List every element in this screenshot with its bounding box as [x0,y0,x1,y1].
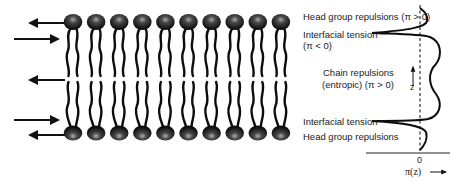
lipid-tail [182,82,186,128]
upper-leaflet-tails [67,28,287,76]
lipid-head-icon [202,126,221,141]
lipid-tail [284,82,287,128]
lipid-tail [251,28,255,76]
lipid-tail [215,82,218,128]
lipid-tail [67,28,71,76]
lipid-tail [238,82,241,128]
lipid-tail [113,28,117,76]
lipid-tail [284,28,286,76]
lipid-head-icon [179,14,198,30]
lipid-tail [122,28,124,76]
lipid-head-icon [133,14,152,30]
label-chain-repulsions: Chain repulsions [323,67,393,78]
lipid-head-icon [179,126,198,141]
lipid-tail [275,28,279,76]
lipid-tail [99,28,101,76]
label-zero-tick: 0 [417,155,422,166]
lipid-tail [168,28,170,76]
label-pressure-axis: π(z) [405,166,421,177]
label-interfacial-tension-bottom: Interfacial tension [303,116,377,127]
lipid-tail [99,82,102,128]
lipid-head-icon [64,14,83,30]
lipid-tail [90,28,94,76]
lipid-head-icon [225,126,244,141]
label-interfacial-tension-top-sign: (π < 0) [303,40,332,51]
label-head-group-repulsions-top: Head group repulsions (π > 0) [303,11,430,22]
lipid-head-icon [156,126,175,141]
lipid-tail [76,82,79,128]
lipid-head-icon [110,14,129,30]
lipid-head-icon [87,14,106,30]
lipid-tail [274,82,278,128]
lipid-head-icon [133,126,152,141]
lipid-tail [90,82,94,128]
lipid-head-icon [87,126,106,141]
lipid-tail [67,82,71,128]
lipid-tail [159,28,163,76]
lipid-tail [182,28,186,76]
lipid-head-icon [64,126,83,141]
lipid-tail [122,82,125,128]
lipid-tail [261,82,264,128]
lipid-head-icon [272,14,291,30]
lipid-tail [76,28,78,76]
lipid-tail [228,82,232,128]
lipid-tail [261,28,263,76]
lipid-tail [215,28,217,76]
lipid-head-icon [110,126,129,141]
lipid-head-icon [272,126,291,141]
lipid-head-icon [156,14,175,30]
bilayer-pressure-diagram: Head group repulsions (π > 0) Interfacia… [0,0,455,184]
lipid-head-icon [248,126,267,141]
lipid-head-icon [225,14,244,30]
lipid-tail [159,82,163,128]
label-interfacial-tension-top: Interfacial tension [303,29,377,40]
lipid-tail [136,28,140,76]
lipid-head-icon [248,14,267,30]
upper-leaflet-head-groups [64,14,291,30]
lipid-tail [205,82,209,128]
lipid-tail [228,28,232,76]
label-chain-repulsions-sign: (entropic) (π > 0) [318,79,398,90]
lipid-tail [251,82,255,128]
lipid-head-icon [202,14,221,30]
lipid-tail [145,28,147,76]
lipid-tail [205,28,209,76]
label-z-axis: z [410,82,415,93]
lipid-tail [168,82,171,128]
lipid-tail [191,82,194,128]
force-arrows [14,23,65,135]
lipid-tail [192,28,194,76]
lipid-tail [113,82,117,128]
lower-leaflet-tails [67,82,287,128]
label-head-group-repulsions-bottom: Head group repulsions [303,131,399,142]
lipid-tail [238,28,240,76]
lipid-tail [136,82,140,128]
diagram-canvas [0,0,455,184]
lower-leaflet-head-groups [64,126,291,141]
lipid-tail [145,82,148,128]
